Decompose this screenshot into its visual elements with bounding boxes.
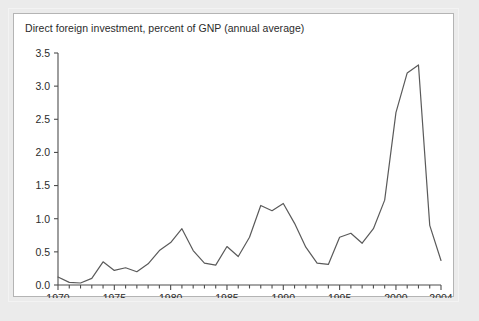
data-series-group [58,65,441,283]
y-axis: 0.00.51.01.52.02.53.03.5 [35,47,58,291]
x-axis: 19701975198019851990199520002004 [46,285,453,298]
x-axis-tick-label: 1990 [272,292,296,298]
chart-figure: Direct foreign investment, percent of GN… [13,13,454,297]
x-axis-tick-label: 1985 [215,292,239,298]
plot-area: 0.00.51.01.52.02.53.03.5 197019751980198… [14,14,455,298]
y-axis-tick-label: 1.0 [35,213,50,225]
y-axis-tick-label: 2.5 [35,113,50,125]
y-axis-tick-label: 1.5 [35,179,50,191]
x-axis-tick-label: 2000 [384,292,408,298]
x-axis-tick-label: 1970 [46,292,70,298]
data-line [58,65,441,283]
y-axis-tick-label: 3.5 [35,47,50,59]
x-axis-tick-label: 1995 [328,292,352,298]
y-axis-tick-label: 2.0 [35,146,50,158]
y-axis-tick-label: 3.0 [35,80,50,92]
x-axis-tick-label: 1975 [103,292,127,298]
y-axis-tick-label: 0.0 [35,279,50,291]
y-axis-tick-label: 0.5 [35,246,50,258]
x-axis-tick-label: 2004 [429,292,453,298]
line-chart-svg: 0.00.51.01.52.02.53.03.5 197019751980198… [14,14,455,298]
x-axis-tick-label: 1980 [159,292,183,298]
